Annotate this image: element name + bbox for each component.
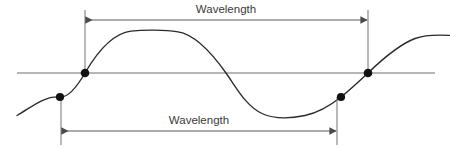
wave-diagram-canvas: Wavelength Wavelength	[0, 0, 450, 148]
marker-dot-slope-right	[337, 93, 345, 101]
marker-dot-slope-left	[56, 93, 64, 101]
wavelength-figure: Wavelength Wavelength	[0, 0, 450, 148]
top-wavelength-label: Wavelength	[196, 3, 256, 15]
marker-dot-crossing-left	[81, 69, 90, 78]
marker-dot-crossing-right	[364, 69, 373, 78]
bottom-wavelength-label: Wavelength	[169, 114, 229, 126]
